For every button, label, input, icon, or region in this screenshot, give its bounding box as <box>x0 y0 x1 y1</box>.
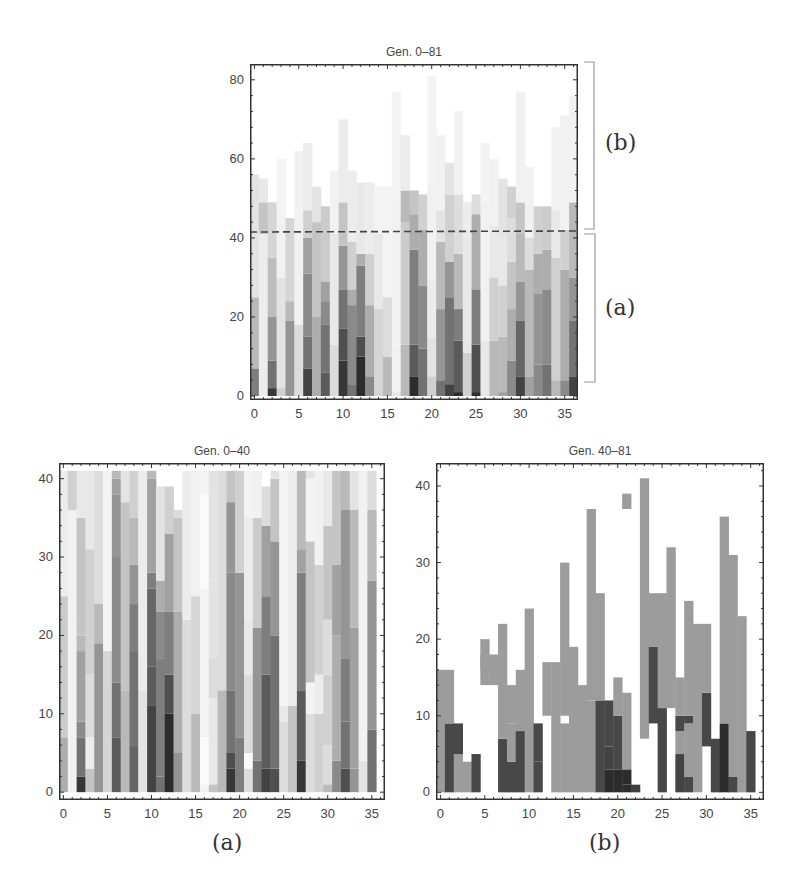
heatmap-cell <box>77 776 86 792</box>
heatmap-cell <box>268 388 277 396</box>
heatmap-cell <box>285 218 294 301</box>
heatmap-cell <box>516 321 525 376</box>
heatmap-cell <box>489 226 498 277</box>
y-tick-label: 40 <box>216 230 244 245</box>
heatmap-cell <box>507 187 516 219</box>
y-tick-label: 20 <box>216 309 244 324</box>
heatmap-cell <box>147 706 156 792</box>
heatmap-cell <box>209 581 218 659</box>
heatmap-cell <box>551 127 560 210</box>
heatmap-cell <box>498 624 507 739</box>
heatmap-cell <box>262 675 271 769</box>
bottom-left-heatmap-plot <box>59 463 385 800</box>
heatmap-cell <box>332 761 341 792</box>
heatmap-cell <box>596 700 605 792</box>
heatmap-cell <box>480 234 489 341</box>
heatmap-cell <box>323 471 332 526</box>
heatmap-cell <box>560 115 569 230</box>
heatmap-cell <box>507 309 516 360</box>
heatmap-cell <box>270 479 279 542</box>
heatmap-cell <box>560 230 569 270</box>
heatmap-cell <box>507 360 516 396</box>
heatmap-cell <box>684 723 693 777</box>
x-tick-label: 15 <box>563 806 583 821</box>
heatmap-cell <box>365 305 374 376</box>
heatmap-cell <box>77 737 86 776</box>
heatmap-cell <box>339 119 348 202</box>
heatmap-cell <box>129 471 138 518</box>
caption-a: (a) <box>212 830 242 855</box>
heatmap-cell <box>77 471 86 518</box>
heatmap-cell <box>235 737 244 792</box>
heatmap-cell <box>374 309 383 396</box>
heatmap-cell <box>445 194 454 261</box>
heatmap-cell <box>85 471 94 549</box>
x-tick-label: 10 <box>333 406 353 421</box>
heatmap-cell <box>534 206 543 253</box>
heatmap-cell <box>454 194 463 253</box>
heatmap-cell <box>244 753 253 769</box>
heatmap-cell <box>294 218 303 325</box>
heatmap-cell <box>330 171 339 234</box>
heatmap-cell <box>165 487 174 534</box>
heatmap-cell <box>525 609 534 793</box>
heatmap-cell <box>85 769 94 793</box>
heatmap-cell <box>270 635 279 768</box>
heatmap-cell <box>675 731 684 754</box>
heatmap-cell <box>77 635 86 651</box>
heatmap-cell <box>383 297 392 356</box>
heatmap-cell <box>534 364 543 396</box>
heatmap-cell <box>365 183 374 254</box>
heatmap-cell <box>191 714 200 792</box>
heatmap-cell <box>200 737 209 784</box>
heatmap-cell <box>312 187 321 223</box>
heatmap-cell <box>279 471 288 526</box>
heatmap-cell <box>359 471 368 761</box>
heatmap-cell <box>427 376 436 396</box>
heatmap-cell <box>129 518 138 565</box>
heatmap-cell <box>253 761 262 792</box>
heatmap-cell <box>306 714 315 792</box>
heatmap-cell <box>226 753 235 769</box>
heatmap-cell <box>253 518 262 628</box>
heatmap-cell <box>746 731 755 792</box>
heatmap-cell <box>525 238 534 270</box>
heatmap-cell <box>77 651 86 722</box>
heatmap-cell <box>702 624 711 693</box>
heatmap-cell <box>297 761 306 792</box>
heatmap-cell <box>560 563 569 716</box>
x-tick-label: 0 <box>244 406 264 421</box>
heatmap-cell <box>534 723 543 761</box>
y-tick-label: 0 <box>216 388 244 403</box>
heatmap-cell <box>367 581 376 730</box>
heatmap-cell <box>68 620 77 792</box>
heatmap-cell <box>226 502 235 573</box>
heatmap-cell <box>551 210 560 257</box>
heatmap-cell <box>383 187 392 298</box>
heatmap-cell <box>596 593 605 700</box>
bracket-b-icon <box>584 62 594 229</box>
heatmap-cell <box>174 518 183 612</box>
heatmap-cell <box>374 187 383 234</box>
heatmap-cell <box>498 337 507 392</box>
heatmap-cell <box>341 471 350 510</box>
heatmap-cell <box>348 242 357 289</box>
heatmap-cell <box>711 739 720 793</box>
heatmap-cell <box>516 281 525 321</box>
heatmap-cell <box>323 745 332 784</box>
heatmap-cell <box>156 776 165 792</box>
heatmap-cell <box>94 643 103 792</box>
heatmap-cell <box>156 487 165 581</box>
x-tick-label: 0 <box>53 806 73 821</box>
heatmap-cell <box>306 471 315 479</box>
heatmap-cell <box>525 270 534 377</box>
heatmap-cell <box>330 345 339 396</box>
top-heatmap-plot <box>250 64 578 400</box>
x-tick-label: 35 <box>362 806 382 821</box>
heatmap-cell <box>129 565 138 604</box>
x-tick-label: 25 <box>274 806 294 821</box>
heatmap-cell <box>321 206 330 281</box>
top-plot-title: Gen. 0–81 <box>250 45 578 59</box>
bracket-a-icon <box>584 234 595 382</box>
y-tick-label: 30 <box>402 555 430 570</box>
